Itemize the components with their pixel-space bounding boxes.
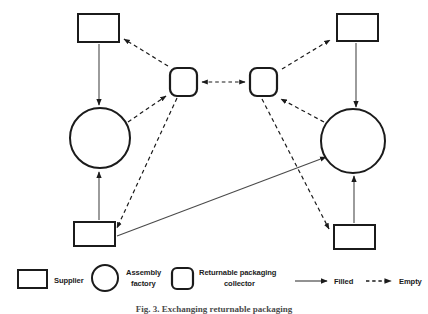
edge-factory-left-to-collector-left xyxy=(128,96,166,122)
figure-caption-text: Fig. 3. Exchanging returnable packaging xyxy=(136,304,293,314)
legend-label-collector-line2: collector xyxy=(224,279,255,288)
node-assembly-factory-right[interactable] xyxy=(321,109,385,173)
legend-label-assembly-factory-line2: factory xyxy=(131,279,156,288)
edge-collector-right-to-supplier-top-right xyxy=(282,40,330,69)
node-assembly-factory-left[interactable] xyxy=(70,108,130,168)
edge-factory-right-to-collector-right xyxy=(281,99,324,122)
rectangle-glyph xyxy=(18,270,47,288)
supply-chain-diagram: Supplier Assembly factory Returnable pac… xyxy=(0,0,428,314)
legend-item-assembly-factory: Assembly factory xyxy=(92,265,162,291)
node-supplier-top-right[interactable] xyxy=(337,14,378,41)
legend-label-supplier: Supplier xyxy=(54,276,84,285)
figure-caption: Fig. 3. Exchanging returnable packaging xyxy=(136,304,293,314)
edge-collector-left-to-supplier-bottom-left xyxy=(117,98,177,228)
node-supplier-bottom-left[interactable] xyxy=(74,222,115,246)
legend-label-assembly-factory-line1: Assembly xyxy=(126,268,162,277)
figure-container: Supplier Assembly factory Returnable pac… xyxy=(0,0,428,314)
node-collector-left[interactable] xyxy=(170,68,197,96)
node-collector-right[interactable] xyxy=(250,68,277,96)
circle-glyph xyxy=(92,265,118,291)
node-supplier-top-left[interactable] xyxy=(78,14,119,42)
node-supplier-bottom-right[interactable] xyxy=(334,225,375,249)
legend-label-empty: Empty xyxy=(399,277,423,286)
legend-label-collector-line1: Returnable packaging xyxy=(199,268,277,277)
edge-collector-right-to-supplier-bottom-right xyxy=(262,99,329,229)
legend: Supplier Assembly factory Returnable pac… xyxy=(18,265,423,291)
legend-item-collector: Returnable packaging collector xyxy=(172,268,277,289)
legend-item-empty: Empty xyxy=(366,277,423,286)
legend-label-filled: Filled xyxy=(334,277,354,286)
edge-supplier-bottom-left-to-factory-right xyxy=(117,157,326,236)
legend-item-supplier: Supplier xyxy=(18,270,84,288)
edge-collector-left-to-supplier-top-left xyxy=(124,39,168,66)
legend-item-filled: Filled xyxy=(295,277,354,286)
rounded-square-glyph xyxy=(172,268,193,289)
